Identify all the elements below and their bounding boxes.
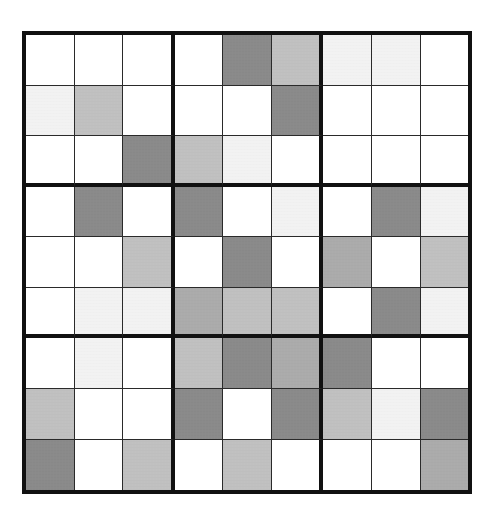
grid-cell-r5-c4[interactable] [175, 237, 224, 288]
grid-cell-r6-c7[interactable] [323, 288, 372, 339]
grid-cell-r7-c7[interactable] [323, 338, 372, 389]
grid-cell-r4-c3[interactable] [123, 187, 175, 238]
grid-cell-r8-c7[interactable] [323, 389, 372, 440]
grid-cell-r6-c8[interactable] [372, 288, 421, 339]
grid-cell-r4-c4[interactable] [175, 187, 224, 238]
grid-cell-r8-c6[interactable] [272, 389, 324, 440]
grid-cell-r2-c4[interactable] [175, 86, 224, 137]
grid-cell-r1-c1[interactable] [26, 35, 75, 86]
grid-cell-r8-c2[interactable] [75, 389, 124, 440]
grid-cell-r9-c5[interactable] [223, 440, 272, 491]
grid-cell-r6-c3[interactable] [123, 288, 175, 339]
grid-cell-r6-c4[interactable] [175, 288, 224, 339]
grid-cell-r1-c4[interactable] [175, 35, 224, 86]
grid-row [26, 389, 468, 440]
grid-cell-r6-c9[interactable] [421, 288, 469, 339]
grid-cell-r1-c6[interactable] [272, 35, 324, 86]
grid-cell-r3-c3[interactable] [123, 136, 175, 187]
grid-cell-r6-c1[interactable] [26, 288, 75, 339]
grid-row [26, 187, 468, 238]
grid-cell-r4-c2[interactable] [75, 187, 124, 238]
grid-cell-r2-c8[interactable] [372, 86, 421, 137]
grid-cell-r5-c3[interactable] [123, 237, 175, 288]
grid-cell-r5-c1[interactable] [26, 237, 75, 288]
grid-cell-r1-c2[interactable] [75, 35, 124, 86]
grid-cell-r1-c7[interactable] [323, 35, 372, 86]
grid-cell-r2-c2[interactable] [75, 86, 124, 137]
grid-cell-r1-c8[interactable] [372, 35, 421, 86]
grid-cell-r9-c1[interactable] [26, 440, 75, 491]
sudoku-grid[interactable] [22, 31, 472, 494]
grid-cell-r2-c6[interactable] [272, 86, 324, 137]
grid-cell-r5-c5[interactable] [223, 237, 272, 288]
grid-cell-r7-c5[interactable] [223, 338, 272, 389]
grid-cell-r3-c5[interactable] [223, 136, 272, 187]
grid-cell-r9-c2[interactable] [75, 440, 124, 491]
grid-cell-r7-c3[interactable] [123, 338, 175, 389]
grid-cell-r4-c8[interactable] [372, 187, 421, 238]
grid-cell-r4-c1[interactable] [26, 187, 75, 238]
grid-cell-r5-c8[interactable] [372, 237, 421, 288]
grid-cell-r3-c1[interactable] [26, 136, 75, 187]
grid-cell-r9-c4[interactable] [175, 440, 224, 491]
grid-cell-r2-c9[interactable] [421, 86, 469, 137]
grid-cell-r4-c9[interactable] [421, 187, 469, 238]
grid-cell-r9-c8[interactable] [372, 440, 421, 491]
grid-cell-r5-c9[interactable] [421, 237, 469, 288]
grid-container [22, 31, 472, 494]
grid-row [26, 35, 468, 86]
grid-row [26, 237, 468, 288]
grid-cell-r3-c2[interactable] [75, 136, 124, 187]
grid-cell-r7-c1[interactable] [26, 338, 75, 389]
grid-cell-r3-c4[interactable] [175, 136, 224, 187]
grid-cell-r1-c3[interactable] [123, 35, 175, 86]
grid-cell-r8-c1[interactable] [26, 389, 75, 440]
grid-cell-r7-c8[interactable] [372, 338, 421, 389]
grid-cell-r5-c2[interactable] [75, 237, 124, 288]
grid-cell-r3-c6[interactable] [272, 136, 324, 187]
grid-cell-r4-c5[interactable] [223, 187, 272, 238]
grid-cell-r8-c4[interactable] [175, 389, 224, 440]
grid-cell-r4-c6[interactable] [272, 187, 324, 238]
grid-cell-r5-c6[interactable] [272, 237, 324, 288]
grid-row [26, 440, 468, 491]
grid-cell-r7-c4[interactable] [175, 338, 224, 389]
grid-row [26, 86, 468, 137]
grid-row [26, 136, 468, 187]
grid-cell-r5-c7[interactable] [323, 237, 372, 288]
grid-cell-r9-c6[interactable] [272, 440, 324, 491]
grid-cell-r2-c7[interactable] [323, 86, 372, 137]
grid-cell-r6-c2[interactable] [75, 288, 124, 339]
grid-cell-r9-c3[interactable] [123, 440, 175, 491]
grid-cell-r8-c9[interactable] [421, 389, 469, 440]
page-root [0, 0, 498, 522]
grid-cell-r1-c5[interactable] [223, 35, 272, 86]
grid-cell-r6-c5[interactable] [223, 288, 272, 339]
grid-cell-r9-c7[interactable] [323, 440, 372, 491]
grid-cell-r7-c9[interactable] [421, 338, 469, 389]
grid-cell-r3-c8[interactable] [372, 136, 421, 187]
grid-cell-r7-c2[interactable] [75, 338, 124, 389]
grid-cell-r6-c6[interactable] [272, 288, 324, 339]
grid-cell-r3-c9[interactable] [421, 136, 469, 187]
grid-cell-r2-c3[interactable] [123, 86, 175, 137]
grid-cell-r8-c5[interactable] [223, 389, 272, 440]
grid-cell-r8-c3[interactable] [123, 389, 175, 440]
grid-cell-r8-c8[interactable] [372, 389, 421, 440]
grid-row [26, 338, 468, 389]
grid-cell-r4-c7[interactable] [323, 187, 372, 238]
grid-cell-r9-c9[interactable] [421, 440, 469, 491]
grid-cell-r3-c7[interactable] [323, 136, 372, 187]
grid-row [26, 288, 468, 339]
grid-cell-r2-c5[interactable] [223, 86, 272, 137]
grid-cell-r2-c1[interactable] [26, 86, 75, 137]
grid-cell-r1-c9[interactable] [421, 35, 469, 86]
grid-cell-r7-c6[interactable] [272, 338, 324, 389]
